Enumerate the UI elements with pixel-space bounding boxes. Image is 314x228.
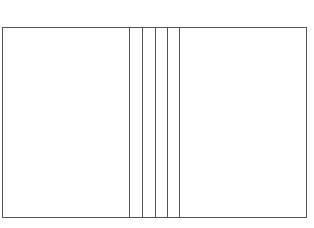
vertical-divider-lines [130,28,180,218]
outer-box [3,28,307,218]
book-spine-diagram [0,0,314,228]
